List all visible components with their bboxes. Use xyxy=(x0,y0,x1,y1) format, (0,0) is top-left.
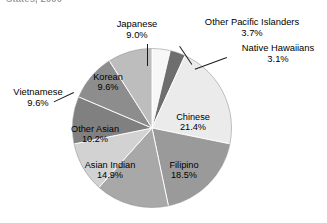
pie-label-japanese-name: Japanese xyxy=(97,18,177,29)
pie-label-filipino: Filipino 18.5% xyxy=(152,160,216,181)
pie-label-korean-percent: 9.6% xyxy=(78,82,138,92)
pie-label-chinese: Chinese 21.4% xyxy=(163,112,223,133)
pie-label-filipino-percent: 18.5% xyxy=(152,170,216,180)
chart-title-fragment: States, 2000 xyxy=(6,0,62,4)
pie-label-japanese: Japanese 9.0% xyxy=(97,18,177,40)
pie-label-korean: Korean 9.6% xyxy=(78,72,138,93)
pie-label-chinese-percent: 21.4% xyxy=(163,122,223,132)
pie-label-japanese-percent: 9.0% xyxy=(97,29,177,40)
pie-label-native-hawaiians: Native Hawaiians 3.1% xyxy=(230,42,326,64)
pie-label-other-pacific-islanders-percent: 3.7% xyxy=(189,27,315,38)
pie-label-other-asian-name: Other Asian xyxy=(56,124,134,134)
pie-label-vietnamese-percent: 9.6% xyxy=(2,97,74,108)
pie-label-vietnamese-name: Vietnamese xyxy=(2,86,74,97)
pie-label-asian-indian-percent: 14.9% xyxy=(68,170,152,180)
pie-label-other-asian-percent: 10.2% xyxy=(56,134,134,144)
pie-label-other-pacific-islanders-name: Other Pacific Islanders xyxy=(189,16,315,27)
pie-label-asian-indian-name: Asian Indian xyxy=(68,160,152,170)
pie-label-other-pacific-islanders: Other Pacific Islanders 3.7% xyxy=(189,16,315,38)
pie-label-asian-indian: Asian Indian 14.9% xyxy=(68,160,152,181)
pie-label-vietnamese: Vietnamese 9.6% xyxy=(2,86,74,108)
pie-label-native-hawaiians-percent: 3.1% xyxy=(230,53,326,64)
leader-line-japanese xyxy=(147,44,148,66)
pie-label-korean-name: Korean xyxy=(78,72,138,82)
pie-label-other-asian: Other Asian 10.2% xyxy=(56,124,134,145)
pie-label-chinese-name: Chinese xyxy=(163,112,223,122)
chart-page: States, 2000 Japanese 9.0% Other Pacific… xyxy=(0,0,327,223)
pie-label-filipino-name: Filipino xyxy=(152,160,216,170)
pie-label-native-hawaiians-name: Native Hawaiians xyxy=(230,42,326,53)
